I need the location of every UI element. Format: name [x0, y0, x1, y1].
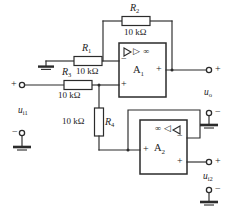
resistor-r2-label: R2 — [130, 3, 139, 13]
terminal-ui2-minus-sign: − — [215, 184, 221, 194]
terminal-ui1-label: ui1 — [18, 106, 28, 116]
ground-symbol-ui1 — [13, 147, 31, 150]
resistor-r3-label: R3 — [62, 67, 71, 77]
opamp-a1-output-plus-sign: + — [156, 64, 162, 74]
resistor-r3-value: 10 kΩ — [58, 91, 80, 100]
terminal-uo-minus-sign: − — [215, 107, 221, 117]
resistor-r2-body — [122, 17, 150, 26]
terminal-uo-plus-sign: + — [215, 64, 221, 74]
ground-symbol-r1 — [38, 67, 54, 70]
resistor-r4-value: 10 kΩ — [62, 117, 84, 126]
terminal-ui2-plus[interactable] — [206, 159, 211, 164]
terminal-ui2-minus[interactable] — [206, 187, 211, 192]
resistor-r4-label: R4 — [105, 117, 114, 127]
opamp-a2-output-minus-sign: − — [177, 131, 183, 141]
ground-symbol-ui2 — [200, 202, 218, 205]
terminal-uo-minus[interactable] — [206, 110, 211, 115]
resistor-r1-value: 10 kΩ — [76, 67, 98, 76]
junction-node-r3-r4 — [98, 84, 101, 87]
terminal-uo-plus[interactable] — [206, 67, 211, 72]
opamp-a2-infinity-icon: ∞ ◁ — [155, 124, 172, 133]
opamp-a2-output-plus-sign: + — [177, 156, 183, 166]
opamp-a1-label: A1 — [133, 65, 144, 76]
opamp-a1-input-minus-sign: − — [121, 54, 127, 64]
resistor-r1-body — [74, 57, 102, 66]
ground-symbol-uo — [200, 125, 218, 128]
resistor-r1-label: R1 — [82, 43, 91, 53]
terminal-ui2-plus-sign: + — [215, 156, 221, 166]
terminal-ui1-minus[interactable] — [19, 130, 24, 135]
terminal-ui1-plus-sign: + — [11, 79, 17, 89]
opamp-a2-input-plus-sign: + — [143, 144, 149, 154]
terminal-ui1-plus[interactable] — [19, 82, 24, 87]
resistor-r3-body — [64, 81, 92, 90]
opamp-a1-infinity-icon: ▷ ∞ — [133, 47, 150, 56]
junction-a2-feedback — [127, 149, 130, 152]
circuit-diagram: R2 10 kΩ R1 10 kΩ R3 10 kΩ R4 10 kΩ ▷ ∞ … — [0, 0, 236, 215]
terminal-ui1-minus-sign: − — [12, 127, 18, 137]
resistor-r4-body — [95, 108, 104, 136]
terminal-uo-label: uo — [204, 88, 212, 98]
junction-a1-output-r2 — [171, 69, 174, 72]
terminal-ui2-label: ui2 — [203, 172, 213, 182]
resistor-r2-value: 10 kΩ — [124, 28, 146, 37]
circuit-schematic-canvas — [0, 0, 236, 215]
opamp-a2-label: A2 — [154, 143, 165, 154]
opamp-a1-input-plus-sign: + — [121, 79, 127, 89]
